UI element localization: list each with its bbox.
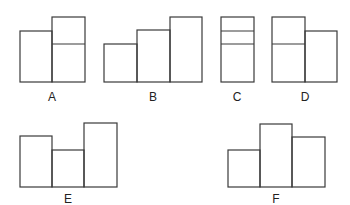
- rectangle: [52, 150, 84, 187]
- figure-e: E: [20, 123, 117, 205]
- figure-label: F: [272, 192, 279, 205]
- figure-label: C: [233, 90, 242, 104]
- figure-canvas: ABCDEF: [0, 0, 350, 205]
- rectangle: [137, 30, 170, 82]
- figure-f: F: [228, 124, 325, 205]
- figure-a: A: [20, 17, 85, 104]
- rectangle: [20, 31, 52, 82]
- figure-label: E: [64, 192, 72, 205]
- figure-label: A: [48, 90, 56, 104]
- rectangle: [221, 17, 254, 82]
- rectangle: [170, 17, 202, 82]
- figure-c: C: [221, 17, 254, 104]
- rectangle: [104, 44, 137, 82]
- figure-d: D: [272, 17, 337, 104]
- rectangle: [52, 17, 85, 82]
- figure-label: D: [301, 90, 310, 104]
- rectangle: [272, 17, 305, 82]
- figure-b: B: [104, 17, 202, 104]
- rectangle: [292, 137, 325, 187]
- rectangle: [260, 124, 292, 187]
- rectangle: [305, 31, 337, 82]
- figure-label: B: [149, 90, 157, 104]
- rectangle: [20, 136, 52, 187]
- rectangle: [228, 150, 260, 187]
- rectangle: [84, 123, 117, 187]
